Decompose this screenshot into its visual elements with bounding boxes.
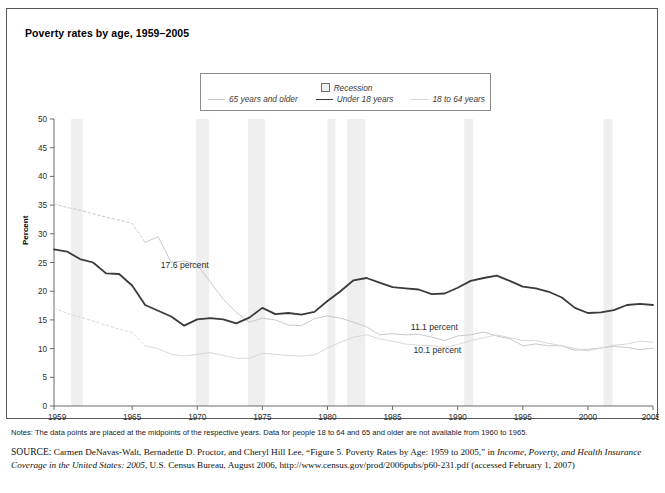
y-tick-label: 30 bbox=[38, 230, 48, 239]
data-annotation: 10.1 percent bbox=[413, 345, 461, 355]
data-annotation: 11.1 percent bbox=[411, 322, 459, 332]
chart-plot-area: 0510152025303540455019591965197019751980… bbox=[7, 9, 659, 420]
y-tick-label: 15 bbox=[38, 316, 48, 325]
figure-page: Poverty rates by age, 1959–2005 Recessio… bbox=[0, 0, 665, 493]
series-line-65-years-and-older bbox=[54, 204, 145, 242]
x-tick-label: 1965 bbox=[123, 413, 142, 420]
series-line-18-to-64-years bbox=[54, 308, 145, 345]
x-tick-label: 2005 bbox=[642, 413, 659, 420]
figure-notes: Notes: The data points are placed at the… bbox=[11, 428, 657, 437]
x-tick-label: 1980 bbox=[318, 413, 337, 420]
x-tick-label: 1975 bbox=[253, 413, 272, 420]
x-tick-label: 1970 bbox=[188, 413, 207, 420]
x-tick-label: 1995 bbox=[514, 413, 533, 420]
y-tick-label: 25 bbox=[38, 259, 48, 268]
notes-text: The data points are placed at the midpoi… bbox=[33, 428, 528, 437]
y-tick-label: 0 bbox=[42, 402, 47, 411]
x-tick-label: 2000 bbox=[579, 413, 598, 420]
source-text-2: , U.S. Census Bureau, August 2006, http:… bbox=[145, 460, 575, 470]
figure-source: SOURCE: Carmen DeNavas-Walt, Bernadette … bbox=[11, 446, 657, 471]
notes-prefix: Notes: bbox=[11, 428, 33, 437]
y-tick-label: 40 bbox=[38, 172, 48, 181]
y-tick-label: 35 bbox=[38, 201, 48, 210]
y-tick-label: 10 bbox=[38, 345, 48, 354]
recession-band-7 bbox=[604, 119, 613, 406]
y-tick-label: 50 bbox=[38, 115, 48, 124]
y-tick-label: 45 bbox=[38, 144, 48, 153]
recession-band-5 bbox=[347, 119, 365, 406]
recession-band-3 bbox=[248, 119, 265, 406]
series-line-18-to-64-years bbox=[145, 335, 653, 359]
series-line-65-years-and-older bbox=[145, 237, 653, 351]
y-tick-label: 20 bbox=[38, 287, 48, 296]
x-tick-label: 1990 bbox=[449, 413, 468, 420]
recession-band-1 bbox=[71, 119, 83, 406]
x-tick-label: 1985 bbox=[383, 413, 402, 420]
x-tick-label: 1959 bbox=[48, 413, 67, 420]
y-tick-label: 5 bbox=[42, 373, 47, 382]
poverty-rates-line-chart: 0510152025303540455019591965197019751980… bbox=[7, 9, 659, 420]
figure-frame: Poverty rates by age, 1959–2005 Recessio… bbox=[6, 8, 658, 419]
source-label: SOURCE: bbox=[11, 446, 52, 457]
source-text-1: Carmen DeNavas-Walt, Bernadette D. Proct… bbox=[52, 447, 497, 457]
data-annotation: 17.6 percent bbox=[161, 260, 209, 270]
recession-band-6 bbox=[464, 119, 473, 406]
recession-band-4 bbox=[327, 119, 335, 406]
